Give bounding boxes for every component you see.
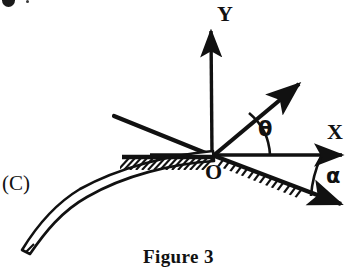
y-axis-line <box>211 31 212 156</box>
origin-label: O <box>205 161 222 183</box>
figure-caption: Figure 3 <box>0 246 357 268</box>
incident-ray-line <box>114 116 213 156</box>
diagram-canvas <box>0 0 357 276</box>
curve-c-label: (C) <box>2 173 30 194</box>
theta-angle-label: θ <box>258 119 272 140</box>
figure-3-diagram: Y X O θ α (C) Figure 3 <box>0 0 357 276</box>
y-axis-label: Y <box>217 3 233 25</box>
alpha-angle-arc <box>311 157 321 196</box>
alpha-angle-label: α <box>326 166 340 187</box>
x-axis-label: X <box>327 121 343 143</box>
tangent-hatch-marks <box>214 156 310 205</box>
curve-c-outline <box>22 151 214 254</box>
tangent-ray-line <box>212 155 341 204</box>
